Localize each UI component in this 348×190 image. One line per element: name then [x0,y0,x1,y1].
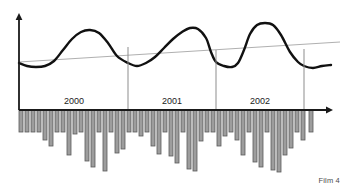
figure-container: 200020012002 Film 4 [0,0,348,190]
bar [295,110,299,132]
bar [259,110,263,167]
bar [19,110,23,132]
bar [115,110,119,153]
bar [157,110,161,154]
bar [181,110,185,132]
bar [127,110,131,132]
bar [277,110,281,172]
bar [73,110,77,134]
bar [85,110,89,161]
bar [199,110,203,141]
bar [241,110,245,155]
bar [283,110,287,155]
bar [37,110,41,132]
bar [109,110,113,132]
bar [265,110,269,132]
bar [301,110,305,140]
bar [97,110,101,132]
bar [205,110,209,132]
bar [271,110,275,170]
bar [187,110,191,169]
bar [309,110,313,132]
bar [175,110,179,163]
year-label-2001: 2001 [162,96,182,106]
bar [61,110,65,132]
bar [103,110,107,171]
bar [145,110,149,132]
bar [67,110,71,155]
bar [151,110,155,146]
bar [217,110,221,146]
year-label-2002: 2002 [250,96,270,106]
bar [133,110,137,132]
bar [235,110,239,140]
chart-canvas: 200020012002 [0,0,348,190]
bar [121,110,125,149]
bar [169,110,173,156]
bar [55,110,59,132]
bar [31,110,35,132]
bar [79,110,83,132]
bar [43,110,47,140]
bar [49,110,53,146]
x-axis-arrow-icon [326,107,333,114]
bar [247,110,251,132]
bar [223,110,227,136]
year-label-2000: 2000 [64,96,84,106]
y-axis-arrow-icon [16,13,23,20]
bar [229,110,233,132]
bar [91,110,95,167]
figure-caption: Film 4 [318,176,340,185]
bar [25,110,29,132]
bar-series-monthly [19,110,313,172]
bar [211,110,215,132]
bar [289,110,293,148]
year-axis-labels: 200020012002 [64,96,270,106]
bar [139,110,143,136]
bar [193,110,197,171]
bar [253,110,257,162]
bar [163,110,167,132]
